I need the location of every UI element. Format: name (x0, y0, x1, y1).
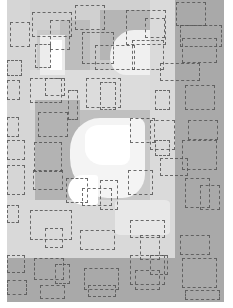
dashed-rectangle (7, 205, 19, 223)
dashed-rectangle (200, 185, 220, 210)
dashed-rectangle (7, 60, 22, 76)
dashed-rectangle (155, 140, 170, 156)
dashed-rectangle (7, 140, 25, 160)
dashed-rectangle (7, 165, 25, 195)
dashed-rectangle (95, 45, 135, 70)
dashed-rectangle (128, 170, 153, 195)
dashed-rectangle (188, 120, 218, 140)
dashed-rectangle (145, 18, 165, 38)
dashed-rectangle (68, 90, 78, 120)
dashed-rectangle (185, 290, 220, 300)
dashed-rectangle (100, 180, 118, 210)
dashed-rectangle (35, 44, 51, 68)
highlight-blob (85, 125, 130, 165)
dashed-rectangle (50, 20, 70, 50)
dashed-rectangle (45, 78, 65, 96)
dashed-rectangle (80, 230, 115, 250)
dashed-rectangle (75, 5, 105, 30)
dashed-rectangle (182, 258, 217, 288)
dashed-rectangle (7, 117, 19, 137)
dashed-rectangle (7, 255, 25, 273)
dashed-rectangle (135, 270, 160, 290)
dashed-rectangle (55, 264, 70, 284)
dashed-rectangle (45, 228, 63, 248)
dashed-rectangle (176, 2, 206, 26)
dashed-rectangle (34, 142, 62, 172)
dashed-rectangle (88, 285, 116, 297)
dashed-rectangle (10, 22, 30, 47)
dashed-rectangle (7, 80, 20, 100)
dashed-rectangle (180, 235, 210, 255)
dashed-rectangle (185, 85, 215, 110)
dashed-rectangle (182, 38, 217, 63)
dashed-rectangle (160, 158, 188, 176)
dashed-rectangle (40, 285, 65, 299)
abstract-artwork-canvas (0, 0, 233, 308)
dashed-rectangle (38, 112, 68, 137)
dashed-rectangle (33, 170, 63, 190)
dashed-rectangle (160, 63, 200, 81)
dashed-rectangle (155, 90, 170, 110)
dashed-rectangle (100, 82, 116, 110)
dashed-rectangle (7, 280, 27, 295)
